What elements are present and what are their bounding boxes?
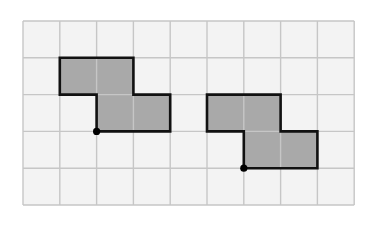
right-shape-dot [240, 165, 247, 172]
grid-diagram [0, 0, 376, 225]
left-shape-dot [93, 128, 100, 135]
right-shape-cell [281, 131, 318, 168]
right-shape-cell [207, 95, 244, 132]
grid-background [23, 21, 354, 205]
left-shape-cell [133, 95, 170, 132]
left-shape-cell [97, 58, 134, 95]
left-shape-cell [97, 95, 134, 132]
left-shape-cell [60, 58, 97, 95]
right-shape-cell [244, 131, 281, 168]
right-shape-cell [244, 95, 281, 132]
